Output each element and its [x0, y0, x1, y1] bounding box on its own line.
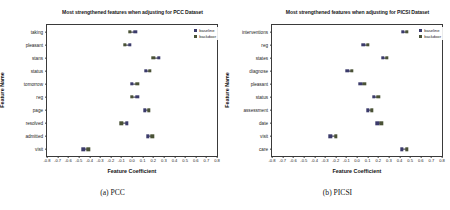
- data-point-baseline: [143, 108, 146, 111]
- plot-area-picsi: -0.8-0.7-0.6-0.5-0.4-0.3-0.2-0.10.00.10.…: [271, 24, 443, 157]
- y-tick-label: pleasant: [26, 42, 47, 47]
- x-tick-label: -0.3: [97, 158, 104, 163]
- panel-pcc: Most strengthened features when adjustin…: [0, 0, 225, 210]
- x-tick-label: -0.6: [290, 158, 297, 163]
- data-point-backdoor: [405, 148, 408, 151]
- x-tick-label: -0.7: [54, 158, 61, 163]
- y-tick-label: resolved: [26, 121, 47, 126]
- legend-label: backdoor: [424, 34, 441, 39]
- data-point-baseline: [125, 122, 128, 125]
- x-tick-label: -0.1: [343, 158, 350, 163]
- x-tick-label: 0.6: [418, 158, 424, 163]
- y-tick-label: states: [256, 55, 272, 60]
- legend-swatch-backdoor-icon: [194, 35, 197, 38]
- data-point-backdoor: [363, 82, 366, 85]
- x-tick-label: 0.5: [182, 158, 188, 163]
- data-point-baseline: [375, 122, 378, 125]
- y-tick-label: pleasant: [251, 81, 272, 86]
- x-tick-label: 0.4: [397, 158, 403, 163]
- data-point-baseline: [366, 108, 369, 111]
- data-point-baseline: [401, 30, 404, 33]
- x-tick-label: 0.1: [365, 158, 371, 163]
- x-tick-label: -0.1: [118, 158, 125, 163]
- data-point-backdoor: [120, 122, 123, 125]
- y-tick-label: diagnose: [249, 68, 272, 73]
- data-point-backdoor: [334, 135, 337, 138]
- legend-swatch-baseline-icon: [194, 29, 197, 32]
- x-tick-label: -0.7: [279, 158, 286, 163]
- data-point-backdoor: [150, 135, 153, 138]
- data-point-baseline: [362, 43, 365, 46]
- x-tick-label: 0.0: [129, 158, 135, 163]
- x-tick-label: 0.7: [429, 158, 435, 163]
- y-tick-label: admitted: [25, 134, 47, 139]
- data-point-backdoor: [385, 56, 388, 59]
- y-tick-label: care: [259, 147, 272, 152]
- y-tick-label: visit: [260, 134, 272, 139]
- data-point-baseline: [136, 95, 139, 98]
- data-point-baseline: [146, 135, 149, 138]
- data-point-baseline: [157, 56, 160, 59]
- y-tick-label: status: [256, 95, 272, 100]
- data-point-baseline: [381, 56, 384, 59]
- data-point-baseline: [358, 82, 361, 85]
- x-tick-label: 0.8: [214, 158, 220, 163]
- data-point-backdoor: [147, 108, 150, 111]
- x-tick-label: 0.2: [375, 158, 381, 163]
- y-tick-label: reg: [261, 42, 272, 47]
- x-tick-label: -0.3: [322, 158, 329, 163]
- x-tick-label: 0.1: [140, 158, 146, 163]
- data-point-backdoor: [366, 43, 369, 46]
- x-tick-label: -0.5: [75, 158, 82, 163]
- x-tick-label: 0.3: [386, 158, 392, 163]
- data-point-backdoor: [405, 30, 408, 33]
- data-point-baseline: [133, 30, 136, 33]
- legend-picsi: baselinebackdoor: [417, 27, 443, 40]
- data-point-backdoor: [148, 69, 151, 72]
- x-tick-label: -0.4: [86, 158, 93, 163]
- data-point-baseline: [329, 135, 332, 138]
- x-tick-label: -0.5: [300, 158, 307, 163]
- chart-title: Most strengthened features when adjustin…: [46, 9, 219, 15]
- x-axis-title: Feature Coefficient: [46, 168, 218, 174]
- data-point-baseline: [130, 82, 133, 85]
- panel-picsi: Most strengthened features when adjustin…: [225, 0, 450, 210]
- legend-label: baseline: [424, 28, 439, 33]
- chart-title: Most strengthened features when adjustin…: [271, 9, 444, 15]
- data-point-baseline: [372, 95, 375, 98]
- data-point-baseline: [81, 148, 84, 151]
- y-tick-label: assessment: [243, 108, 272, 113]
- x-tick-label: 0.6: [193, 158, 199, 163]
- data-point-baseline: [400, 148, 403, 151]
- legend-swatch-backdoor-icon: [419, 35, 422, 38]
- legend-swatch-baseline-icon: [419, 29, 422, 32]
- panel-caption: (a) PCC: [0, 188, 225, 197]
- y-tick-label: reg: [36, 95, 47, 100]
- data-point-baseline: [128, 43, 131, 46]
- x-tick-label: -0.8: [43, 158, 50, 163]
- y-tick-label: taking: [31, 29, 47, 34]
- legend-item-baseline: baseline: [419, 28, 441, 33]
- figure-two-panel-feature-coefficients: Most strengthened features when adjustin…: [0, 0, 450, 210]
- y-axis-title: Feature Name: [0, 47, 5, 133]
- legend-item-backdoor: backdoor: [194, 34, 216, 39]
- data-point-backdoor: [130, 95, 133, 98]
- y-tick-label: visit: [35, 147, 47, 152]
- y-tick-label: page: [33, 108, 47, 113]
- data-point-backdoor: [87, 148, 90, 151]
- legend-item-backdoor: backdoor: [419, 34, 441, 39]
- legend-label: baseline: [199, 28, 214, 33]
- y-axis-title: Feature Name: [224, 47, 230, 133]
- x-tick-label: 0.5: [407, 158, 413, 163]
- x-tick-label: -0.6: [65, 158, 72, 163]
- plot-area-pcc: -0.8-0.7-0.6-0.5-0.4-0.3-0.2-0.10.00.10.…: [46, 24, 218, 157]
- data-point-backdoor: [123, 43, 126, 46]
- data-point-backdoor: [136, 82, 139, 85]
- x-tick-label: 0.8: [439, 158, 445, 163]
- panel-caption: (b) PICSI: [225, 188, 450, 197]
- x-tick-label: 0.3: [161, 158, 167, 163]
- legend-label: backdoor: [199, 34, 216, 39]
- data-point-backdoor: [380, 122, 383, 125]
- x-tick-label: 0.7: [204, 158, 210, 163]
- data-point-baseline: [346, 69, 349, 72]
